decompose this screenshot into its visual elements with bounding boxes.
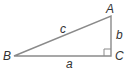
vertex-label-c: C — [115, 49, 124, 63]
side-label-a: a — [66, 57, 73, 71]
vertex-label-b: B — [3, 49, 11, 63]
side-label-b: b — [116, 28, 123, 42]
right-triangle-diagram: A B C c b a — [0, 0, 134, 71]
side-label-c: c — [60, 22, 66, 36]
right-angle-marker — [104, 49, 111, 56]
vertex-label-a: A — [105, 2, 114, 16]
